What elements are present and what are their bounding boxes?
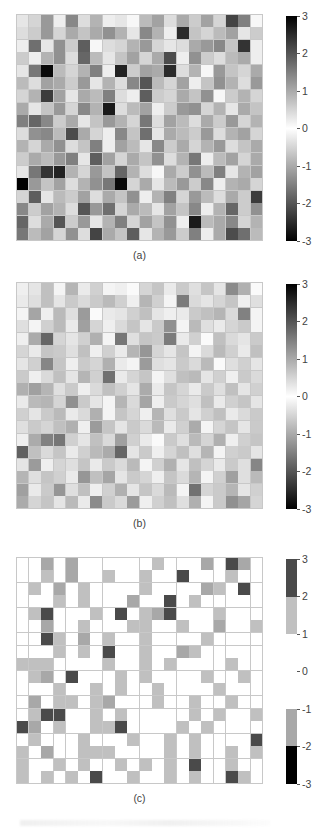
heatmap-cell: [29, 103, 41, 115]
heatmap-cell: [140, 396, 152, 408]
heatmap-cell: [66, 320, 78, 332]
heatmap-cell: [66, 40, 78, 52]
heatmap-cell: [78, 759, 90, 771]
heatmap-cell: [115, 371, 127, 383]
heatmap-cell: [29, 203, 41, 215]
heatmap-cell: [152, 658, 164, 670]
heatmap-cell: [152, 696, 164, 708]
heatmap-cell: [78, 734, 90, 746]
heatmap-cell: [164, 283, 176, 295]
heatmap-cell: [41, 191, 53, 203]
heatmap-cell: [41, 77, 53, 89]
heatmap-cell: [90, 371, 102, 383]
tick-mark-icon: [297, 166, 300, 167]
heatmap-cell: [127, 283, 139, 295]
tick-mark-icon: [297, 671, 300, 672]
heatmap-cell: [214, 358, 226, 370]
heatmap-cell: [66, 646, 78, 658]
heatmap-cell: [54, 153, 66, 165]
heatmap-cell: [238, 709, 250, 721]
heatmap-cell: [78, 27, 90, 39]
heatmap-cell: [90, 595, 102, 607]
heatmap-cell: [41, 345, 53, 357]
heatmap-cell: [78, 320, 90, 332]
heatmap-cell: [90, 408, 102, 420]
heatmap-cell: [164, 446, 176, 458]
tick-mark-icon: [297, 16, 300, 17]
heatmap-cell: [140, 140, 152, 152]
heatmap-cell: [201, 65, 213, 77]
heatmap-cell: [17, 320, 29, 332]
heatmap-cell: [238, 658, 250, 670]
heatmap-cell: [127, 734, 139, 746]
heatmap-cell: [201, 52, 213, 64]
heatmap-cell: [78, 153, 90, 165]
panel-b-label: (b): [0, 517, 279, 529]
heatmap-cell: [127, 140, 139, 152]
heatmap-cell: [127, 658, 139, 670]
heatmap-cell: [54, 696, 66, 708]
heatmap-cell: [164, 153, 176, 165]
heatmap-cell: [177, 166, 189, 178]
heatmap-cell: [29, 421, 41, 433]
heatmap-cell: [103, 408, 115, 420]
heatmap-cell: [103, 633, 115, 645]
heatmap-cell: [251, 446, 263, 458]
heatmap-cell: [29, 583, 41, 595]
heatmap-cell: [177, 308, 189, 320]
heatmap-cell: [140, 721, 152, 733]
heatmap-cell: [29, 484, 41, 496]
heatmap-cell: [29, 358, 41, 370]
heatmap-cell: [152, 283, 164, 295]
heatmap-cell: [17, 15, 29, 27]
heatmap-cell: [54, 595, 66, 607]
heatmap-cell: [41, 671, 53, 683]
heatmap-cell: [152, 345, 164, 357]
heatmap-cell: [127, 358, 139, 370]
heatmap-cell: [90, 746, 102, 758]
heatmap-cell: [238, 203, 250, 215]
heatmap-cell: [214, 558, 226, 570]
heatmap-cell: [177, 383, 189, 395]
heatmap-cell: [189, 228, 201, 240]
heatmap-cell: [78, 646, 90, 658]
heatmap-cell: [214, 658, 226, 670]
heatmap-cell: [17, 421, 29, 433]
heatmap-cell: [226, 153, 238, 165]
heatmap-cell: [78, 608, 90, 620]
heatmap-cell: [238, 383, 250, 395]
heatmap-cell: [103, 570, 115, 582]
heatmap-cell: [115, 358, 127, 370]
heatmap-cell: [115, 759, 127, 771]
heatmap-cell: [201, 746, 213, 758]
heatmap-cell: [164, 52, 176, 64]
heatmap-cell: [127, 471, 139, 483]
heatmap-cell: [90, 90, 102, 102]
heatmap-cell: [251, 65, 263, 77]
heatmap-cell: [90, 633, 102, 645]
heatmap-cell: [127, 683, 139, 695]
heatmap-cell: [177, 90, 189, 102]
heatmap-cell: [201, 358, 213, 370]
heatmap-cell: [238, 746, 250, 758]
heatmap-cell: [29, 759, 41, 771]
heatmap-cell: [29, 115, 41, 127]
heatmap-cell: [152, 671, 164, 683]
heatmap-cell: [103, 203, 115, 215]
heatmap-cell: [103, 471, 115, 483]
heatmap-cell: [177, 671, 189, 683]
heatmap-cell: [78, 295, 90, 307]
heatmap-cell: [54, 40, 66, 52]
heatmap-cell: [103, 65, 115, 77]
heatmap-cell: [127, 595, 139, 607]
heatmap-cell: [103, 620, 115, 632]
heatmap-cell: [164, 709, 176, 721]
colorbar-c-container: 3210-1-2-3: [286, 559, 326, 784]
heatmap-cell: [41, 709, 53, 721]
heatmap-cell: [115, 90, 127, 102]
heatmap-cell: [66, 128, 78, 140]
heatmap-cell: [226, 103, 238, 115]
heatmap-cell: [251, 709, 263, 721]
heatmap-cell: [152, 721, 164, 733]
tick-mark-icon: [297, 321, 300, 322]
